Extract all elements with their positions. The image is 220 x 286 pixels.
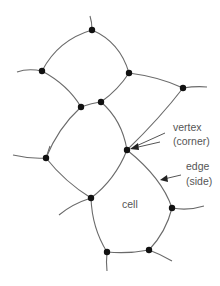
vertex-dot	[126, 70, 132, 76]
stub-lowerright	[172, 206, 204, 209]
stub-lowerleft	[13, 155, 46, 158]
cell-network-diagram: vertex (corner) edge (side) cell	[0, 0, 220, 286]
edge-upperright-farright	[129, 73, 183, 88]
vertex-dot	[89, 27, 95, 33]
side-label: (side)	[186, 175, 212, 187]
vertex-dot	[78, 104, 84, 110]
edge-top-upperleft	[42, 30, 92, 71]
edge-upperleft-midleft	[42, 71, 81, 107]
edge-lowerleft-lowercenter	[46, 158, 91, 198]
vertex-dot	[88, 195, 94, 201]
edge-bottomleft-lowercenter	[91, 198, 107, 252]
stub-lowercenter	[59, 198, 91, 215]
edge-midleft-lowerleft	[46, 107, 81, 158]
corner-label: (corner)	[173, 135, 210, 147]
edge-callout: edge (side)	[160, 160, 212, 187]
vertex-dot	[124, 147, 130, 153]
edge-center-lowercenter	[91, 150, 127, 198]
edge-midright-upperright	[101, 73, 129, 102]
vertex-label: vertex	[173, 121, 202, 133]
vertex-dot	[39, 68, 45, 74]
vertex-dot	[43, 155, 49, 161]
vertex-dot	[104, 249, 110, 255]
edge-bottomright-bottomleft	[107, 250, 149, 253]
edge-arrowhead-icon	[160, 175, 168, 182]
vertex-dot	[146, 247, 152, 253]
vertex-dot	[98, 99, 104, 105]
edge-label: edge	[186, 160, 210, 172]
stub-bottomright	[149, 250, 172, 261]
edge-top-upperright	[92, 30, 129, 73]
vertex-dot	[169, 205, 175, 211]
edge-midright-center	[101, 102, 127, 150]
vertices	[39, 27, 186, 255]
cell-label: cell	[122, 198, 138, 210]
stub-upperleft	[17, 70, 42, 72]
edge-lowerright-bottomright	[149, 208, 172, 250]
vertex-dot	[180, 85, 186, 91]
stub-farright	[183, 87, 207, 88]
